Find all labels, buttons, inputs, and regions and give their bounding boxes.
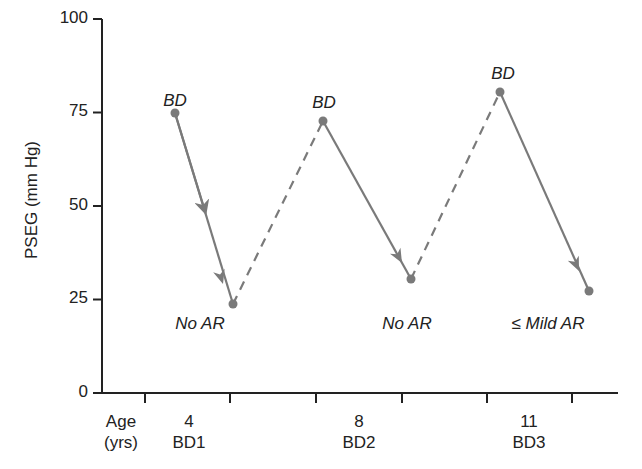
annotation-bd1-post: No AR (175, 314, 224, 334)
point-bd2-pre (319, 117, 328, 126)
y-ticks (93, 19, 102, 393)
x-category-procedure: BD3 (512, 432, 545, 453)
x-category-bd2: 8 BD2 (342, 411, 375, 453)
x-ticks (145, 393, 572, 403)
y-tick-label: 100 (48, 8, 88, 28)
chart-canvas (0, 0, 642, 469)
point-bd2-post (407, 275, 416, 284)
x-axis-age-label: Age (104, 411, 138, 432)
y-tick-label: 25 (48, 288, 88, 308)
annotation-bd3-pre: BD (491, 64, 515, 84)
x-axis-prefix: Age (yrs) (104, 411, 138, 453)
series-lines (175, 92, 589, 304)
x-axis-units-label: (yrs) (104, 432, 138, 453)
arrow-icon (390, 248, 407, 266)
x-category-procedure: BD2 (342, 432, 375, 453)
x-category-procedure: BD1 (172, 432, 205, 453)
annotation-bd2-pre: BD (312, 93, 336, 113)
interval-2-dashed (411, 92, 500, 279)
point-bd3-pre (496, 88, 505, 97)
x-category-age: 4 (172, 411, 205, 432)
x-category-age: 11 (512, 411, 545, 432)
annotation-bd2-post: No AR (382, 314, 431, 334)
x-category-age: 8 (342, 411, 375, 432)
interval-1-dashed (233, 121, 323, 304)
point-bd1-post (229, 300, 238, 309)
y-tick-label: 75 (48, 101, 88, 121)
bd1-drop (175, 113, 233, 304)
annotation-bd3-post: ≤ Mild AR (512, 314, 585, 334)
y-axis-label: PSEG (mm Hg) (22, 130, 42, 270)
data-points (171, 88, 594, 309)
x-category-bd1: 4 BD1 (172, 411, 205, 453)
arrow-icon (568, 256, 585, 274)
x-category-bd3: 11 BD3 (512, 411, 545, 453)
annotation-bd1-pre: BD (163, 91, 187, 111)
point-bd3-post (585, 287, 594, 296)
y-tick-label: 50 (48, 195, 88, 215)
arrowheads (213, 248, 584, 286)
y-tick-label: 0 (48, 382, 88, 402)
